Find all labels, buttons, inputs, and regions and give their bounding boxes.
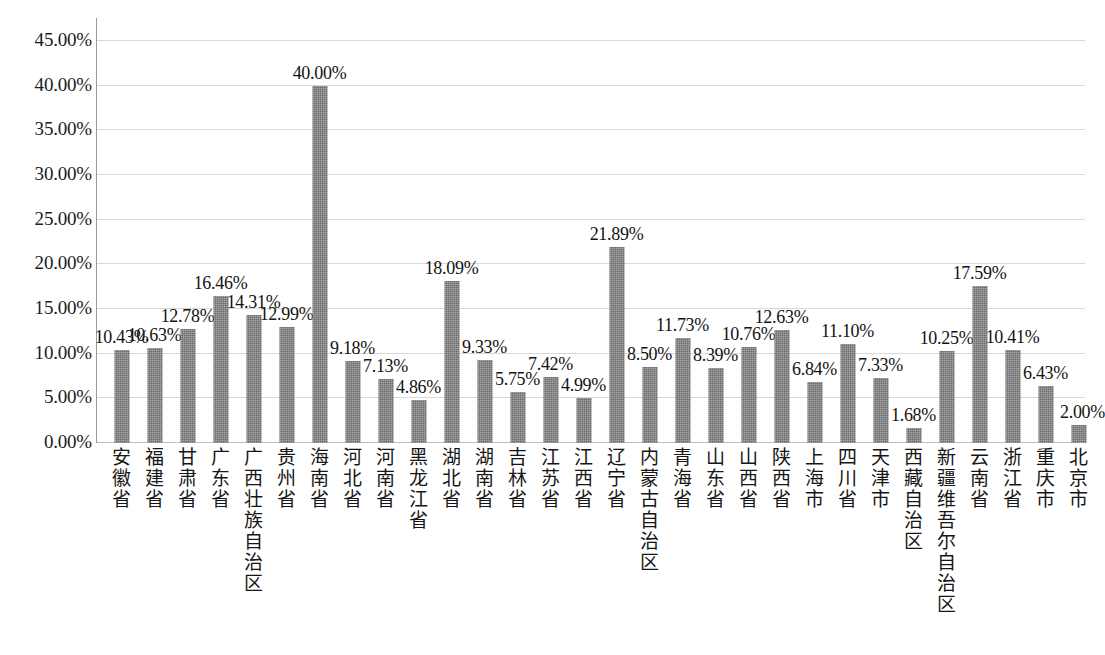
category-text: 甘肃省 <box>177 447 198 510</box>
x-axis-category-label: 江苏省 <box>534 447 567 510</box>
x-axis-category-label: 广东省 <box>204 447 237 510</box>
bar[interactable] <box>378 379 393 443</box>
category-text: 湖北省 <box>441 447 462 510</box>
bar-group[interactable]: 5.75% <box>501 0 534 443</box>
y-axis-tick-label: 30.00% <box>0 164 92 183</box>
bar-group[interactable]: 6.43% <box>1029 0 1062 443</box>
category-text: 河北省 <box>342 447 363 510</box>
bar-group[interactable]: 10.43% <box>105 0 138 443</box>
bar[interactable] <box>180 329 195 443</box>
category-text: 海南省 <box>309 447 330 510</box>
bar[interactable] <box>1071 425 1086 443</box>
bar[interactable] <box>477 360 492 443</box>
y-axis-tick-label: 10.00% <box>0 343 92 362</box>
bar[interactable] <box>939 351 954 443</box>
bar-group[interactable]: 17.59% <box>963 0 996 443</box>
bar[interactable] <box>1038 386 1053 443</box>
y-axis-tick-label: 45.00% <box>0 30 92 49</box>
category-text: 江西省 <box>573 447 594 510</box>
y-axis-tick-label: 25.00% <box>0 209 92 228</box>
bar[interactable] <box>411 400 426 443</box>
bar[interactable] <box>807 382 822 443</box>
x-axis-category-label: 云南省 <box>963 447 996 510</box>
x-axis-category-label: 甘肃省 <box>171 447 204 510</box>
bar[interactable] <box>840 344 855 443</box>
bar-group[interactable]: 12.78% <box>171 0 204 443</box>
y-axis-tick-label: 15.00% <box>0 298 92 317</box>
x-axis-category-label: 贵州省 <box>270 447 303 510</box>
category-text: 浙江省 <box>1002 447 1023 510</box>
bar[interactable] <box>708 368 723 443</box>
bar[interactable] <box>576 398 591 443</box>
bar[interactable] <box>873 378 888 443</box>
bar-group[interactable]: 11.10% <box>831 0 864 443</box>
x-axis-category-label: 四川省 <box>831 447 864 510</box>
category-text: 上海市 <box>804 447 825 510</box>
bar-group[interactable]: 10.76% <box>732 0 765 443</box>
bar-group[interactable]: 8.50% <box>633 0 666 443</box>
bar-group[interactable]: 7.33% <box>864 0 897 443</box>
x-axis-category-label: 山西省 <box>732 447 765 510</box>
y-axis-tick-label: 0.00% <box>0 432 92 451</box>
category-text: 福建省 <box>144 447 165 510</box>
category-text: 内蒙古自治区 <box>639 447 660 573</box>
bar[interactable] <box>741 347 756 443</box>
x-axis-category-label: 河南省 <box>369 447 402 510</box>
x-axis-category-label: 陕西省 <box>765 447 798 510</box>
bar[interactable] <box>972 286 987 443</box>
bar-group[interactable]: 10.63% <box>138 0 171 443</box>
bar-group[interactable]: 9.18% <box>336 0 369 443</box>
x-axis-category-label: 辽宁省 <box>600 447 633 510</box>
bar-group[interactable]: 14.31% <box>237 0 270 443</box>
bar-group[interactable]: 11.73% <box>666 0 699 443</box>
category-text: 安徽省 <box>111 447 132 510</box>
category-text: 陕西省 <box>771 447 792 510</box>
bar-group[interactable]: 10.25% <box>930 0 963 443</box>
category-text: 新疆维吾尔自治区 <box>936 447 957 615</box>
bar[interactable] <box>510 392 525 443</box>
bar-group[interactable]: 16.46% <box>204 0 237 443</box>
category-text: 河南省 <box>375 447 396 510</box>
bar-group[interactable]: 4.99% <box>567 0 600 443</box>
category-text: 山西省 <box>738 447 759 510</box>
x-axis-category-label: 湖南省 <box>468 447 501 510</box>
bar[interactable] <box>906 428 921 443</box>
bar[interactable] <box>1005 350 1020 443</box>
category-text: 山东省 <box>705 447 726 510</box>
bar-group[interactable]: 1.68% <box>897 0 930 443</box>
bar-group[interactable]: 2.00% <box>1062 0 1095 443</box>
bar-group[interactable]: 18.09% <box>435 0 468 443</box>
bar[interactable] <box>642 367 657 443</box>
x-axis-category-labels: 安徽省福建省甘肃省广东省广西壮族自治区贵州省海南省河北省河南省黑龙江省湖北省湖南… <box>97 447 1085 647</box>
bar[interactable] <box>609 247 624 443</box>
bar-group[interactable]: 6.84% <box>798 0 831 443</box>
bar-group[interactable]: 4.86% <box>402 0 435 443</box>
x-axis-category-label: 重庆市 <box>1029 447 1062 510</box>
x-axis-category-label: 海南省 <box>303 447 336 510</box>
bar-group[interactable]: 21.89% <box>600 0 633 443</box>
category-text: 广东省 <box>210 447 231 510</box>
bar[interactable] <box>675 338 690 443</box>
bar[interactable] <box>774 330 789 443</box>
x-axis-category-label: 内蒙古自治区 <box>633 447 666 573</box>
bar[interactable] <box>246 315 261 443</box>
category-text: 吉林省 <box>507 447 528 510</box>
bar[interactable] <box>444 281 459 443</box>
x-axis-category-label: 安徽省 <box>105 447 138 510</box>
bar[interactable] <box>279 327 294 443</box>
bar[interactable] <box>114 350 129 443</box>
bar[interactable] <box>312 86 327 443</box>
category-text: 四川省 <box>837 447 858 510</box>
x-axis-category-label: 天津市 <box>864 447 897 510</box>
category-text: 贵州省 <box>276 447 297 510</box>
bar-group[interactable]: 8.39% <box>699 0 732 443</box>
category-text: 重庆市 <box>1035 447 1056 510</box>
bar[interactable] <box>543 377 558 443</box>
bar[interactable] <box>213 296 228 443</box>
bar[interactable] <box>345 361 360 443</box>
category-text: 江苏省 <box>540 447 561 510</box>
bar[interactable] <box>147 348 162 443</box>
bar-group[interactable]: 40.00% <box>303 0 336 443</box>
category-text: 辽宁省 <box>606 447 627 510</box>
